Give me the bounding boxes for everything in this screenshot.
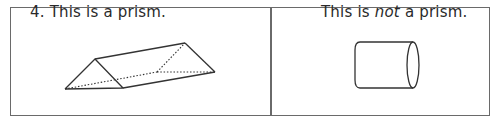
cylinder-icon (0, 0, 499, 124)
